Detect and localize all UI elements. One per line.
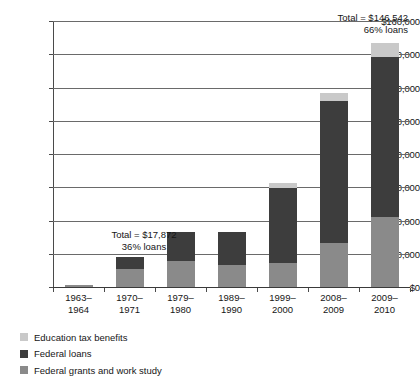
legend-item-label: Federal loans bbox=[34, 348, 92, 359]
legend-item: Education tax benefits bbox=[20, 330, 280, 344]
annotation-line-loans: 36% loans bbox=[74, 241, 214, 253]
legend-item-label: Education tax benefits bbox=[34, 332, 127, 343]
bar-segment bbox=[218, 232, 246, 264]
bar-segment bbox=[167, 261, 195, 287]
x-axis-label-line: 2010 bbox=[355, 304, 415, 316]
gridline bbox=[53, 88, 410, 89]
bar bbox=[116, 257, 144, 287]
bar bbox=[320, 93, 348, 288]
gridline bbox=[53, 154, 410, 155]
bar-segment bbox=[320, 93, 348, 101]
gridline bbox=[53, 121, 410, 122]
annotation-total-last-period: Total = $146,542 66% loans bbox=[337, 12, 408, 36]
bar-segment bbox=[65, 285, 93, 287]
x-axis-label-line: 2009– bbox=[355, 292, 415, 304]
bar bbox=[65, 285, 93, 287]
legend-color-swatch bbox=[20, 366, 28, 374]
gridline bbox=[53, 187, 410, 188]
bar bbox=[371, 43, 399, 287]
gridline bbox=[53, 54, 410, 55]
chart-legend: Education tax benefitsFederal loansFeder… bbox=[20, 330, 280, 380]
bar-segment bbox=[116, 257, 144, 268]
bar-segment bbox=[371, 57, 399, 217]
annotation-line-total: Total = $17,872 bbox=[74, 229, 214, 241]
gridline bbox=[53, 221, 410, 222]
bar-segment bbox=[116, 269, 144, 287]
legend-item: Federal loans bbox=[20, 347, 280, 361]
bar-segment bbox=[320, 243, 348, 287]
bar bbox=[218, 232, 246, 287]
bar-segment bbox=[320, 101, 348, 243]
bar-segment bbox=[371, 217, 399, 287]
bar-segment bbox=[371, 43, 399, 56]
x-axis-tick-label: 2009–2010 bbox=[355, 292, 415, 315]
annotation-line-total: Total = $146,542 bbox=[337, 12, 408, 24]
chart-container: $020,00040,00060,00080,000100,000120,000… bbox=[0, 0, 420, 385]
annotation-total-second-period: Total = $17,872 36% loans bbox=[74, 229, 214, 253]
legend-color-swatch bbox=[20, 350, 28, 358]
legend-color-swatch bbox=[20, 333, 28, 341]
bar bbox=[269, 183, 297, 287]
legend-item: Federal grants and work study bbox=[20, 363, 280, 377]
annotation-line-loans: 66% loans bbox=[337, 24, 408, 36]
legend-item-label: Federal grants and work study bbox=[34, 365, 162, 376]
axis-baseline bbox=[53, 287, 410, 288]
bar-segment bbox=[269, 188, 297, 263]
bar-segment bbox=[269, 263, 297, 287]
bar-segment bbox=[218, 265, 246, 287]
